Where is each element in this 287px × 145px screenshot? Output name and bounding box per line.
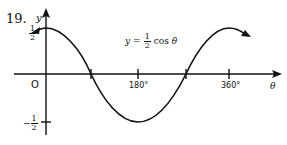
equation-func: cos <box>154 37 169 46</box>
curve-right-arrow-icon <box>241 30 251 37</box>
equation-coef-den: 2 <box>145 42 150 50</box>
neg-half-denominator: 2 <box>32 124 37 132</box>
y-tick-label-neg-half: − 1 2 <box>23 115 38 132</box>
equation-lhs: y <box>125 37 130 46</box>
origin-label: O <box>31 80 39 90</box>
equation-var: θ <box>172 37 177 46</box>
cosine-graph <box>0 0 287 145</box>
equation-equals: = <box>133 37 141 46</box>
equation-label: y = 1 2 cos θ <box>125 33 177 50</box>
x-axis-label: θ <box>270 82 275 91</box>
problem-number: 19. <box>6 12 27 25</box>
half-denominator: 2 <box>30 34 35 42</box>
x-tick-label-360: 360° <box>221 82 240 90</box>
y-axis-label: y <box>36 13 42 23</box>
y-tick-label-half: 1 2 <box>29 25 36 42</box>
negative-sign: − <box>23 119 31 128</box>
x-tick-label-180: 180° <box>129 82 148 90</box>
